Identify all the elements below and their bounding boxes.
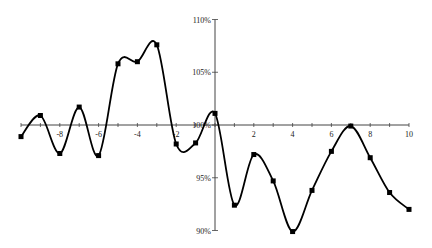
y-tick-label: 90% <box>196 227 211 236</box>
x-tick-label: -6 <box>95 130 102 139</box>
data-point-marker <box>368 155 373 160</box>
data-point-marker <box>116 61 121 66</box>
x-tick-label: -8 <box>56 130 63 139</box>
data-point-marker <box>310 188 315 193</box>
data-point-marker <box>135 59 140 64</box>
y-tick-label: 95% <box>196 174 211 183</box>
data-point-marker <box>174 141 179 146</box>
data-point-marker <box>232 203 237 208</box>
data-point-marker <box>290 229 295 234</box>
data-point-marker <box>154 42 159 47</box>
data-point-marker <box>96 153 101 158</box>
data-point-marker <box>251 152 256 157</box>
y-tick-label: 100% <box>192 121 211 130</box>
data-point-marker <box>407 207 412 212</box>
data-point-marker <box>348 124 353 129</box>
y-tick-label: 105% <box>192 68 211 77</box>
x-tick-label: 2 <box>252 130 256 139</box>
x-tick-label: 4 <box>291 130 295 139</box>
x-tick-label: -4 <box>134 130 141 139</box>
data-point-marker <box>19 134 24 139</box>
data-point-marker <box>387 190 392 195</box>
data-point-marker <box>271 178 276 183</box>
x-tick-label: 10 <box>405 130 413 139</box>
data-point-marker <box>77 105 82 110</box>
data-point-marker <box>329 149 334 154</box>
chart-canvas: -8-6-4-224681090%95%100%105%110% <box>0 0 432 248</box>
data-point-marker <box>213 111 218 116</box>
data-point-marker <box>38 113 43 118</box>
x-tick-label: 6 <box>329 130 333 139</box>
y-tick-label: 110% <box>193 16 212 25</box>
x-tick-label: 8 <box>368 130 372 139</box>
data-point-marker <box>193 140 198 145</box>
data-point-marker <box>57 151 62 156</box>
line-chart: -8-6-4-224681090%95%100%105%110% <box>0 0 432 248</box>
